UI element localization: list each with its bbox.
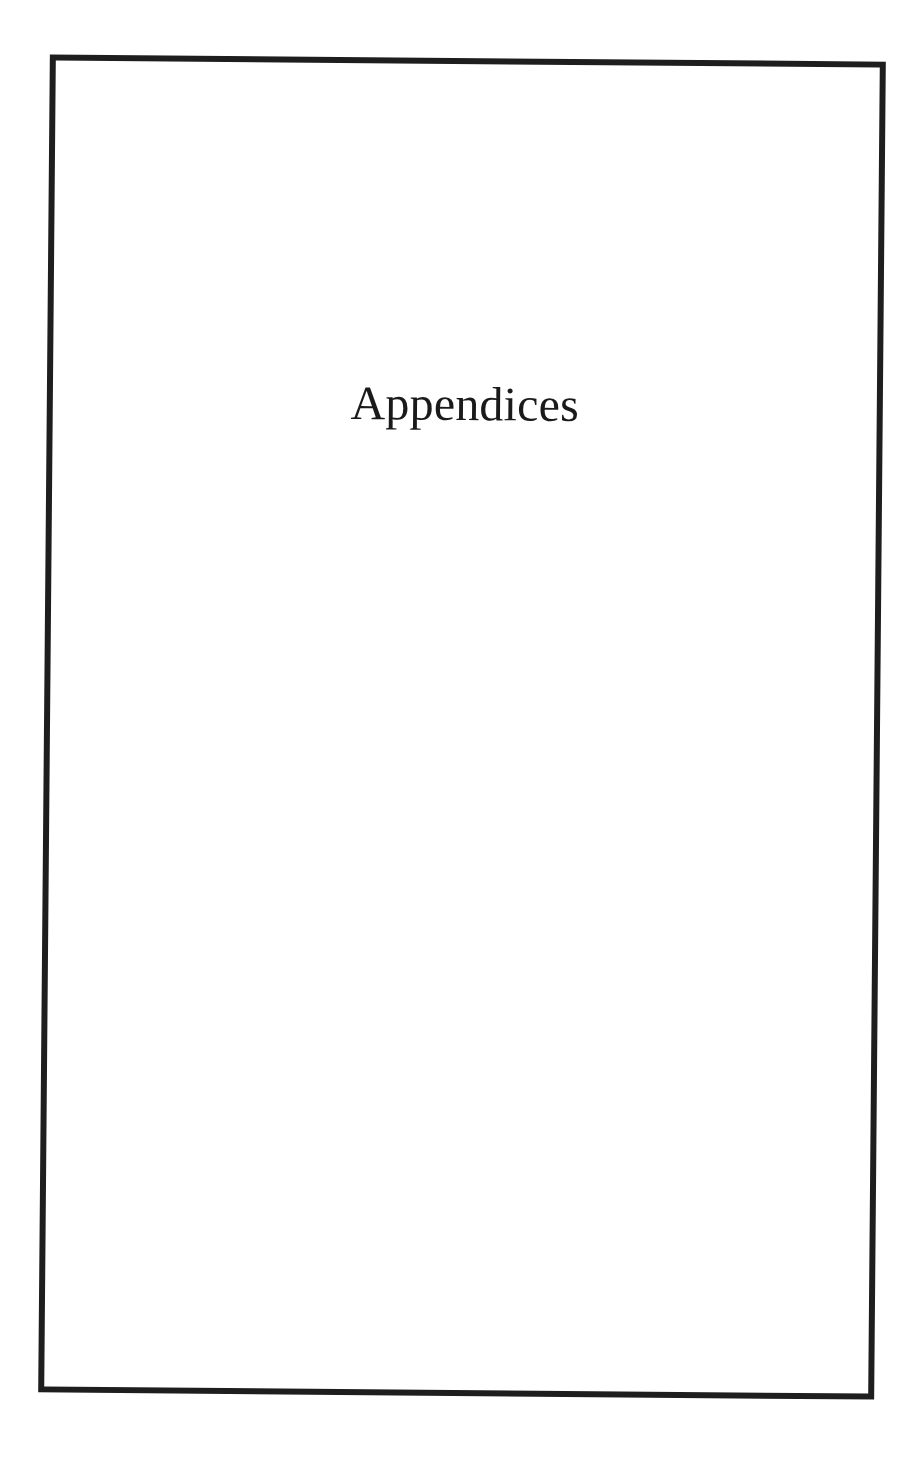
- section-title: Appendices: [53, 372, 877, 434]
- page-border-frame: Appendices: [38, 54, 886, 1399]
